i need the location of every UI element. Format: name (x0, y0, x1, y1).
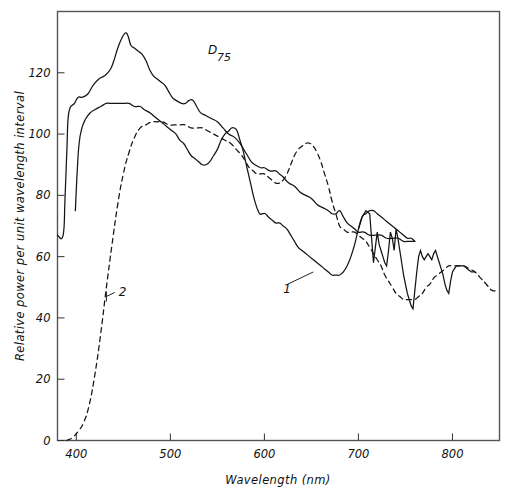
y-tick-label-60: 60 (36, 250, 51, 264)
x-tick-label-800: 800 (442, 447, 464, 461)
series-label-1: 1 (283, 282, 291, 296)
chart-canvas: 400500600700800 020406080100120 D 75 1 2… (0, 0, 509, 496)
series-curve-1 (75, 103, 414, 275)
series-label-d75-subscript: 75 (217, 51, 231, 64)
x-tick-label-700: 700 (347, 447, 369, 461)
series-curve-1-extension (358, 211, 475, 309)
plot-frame (58, 12, 500, 441)
annotation-1: 1 (283, 272, 313, 296)
x-tick-label-600: 600 (253, 447, 275, 461)
y-tick-label-20: 20 (36, 372, 51, 386)
leader-line-2 (106, 292, 114, 296)
y-axis-label: Relative power per unit wavelength inter… (13, 91, 27, 362)
y-tick-label-0: 0 (43, 434, 50, 448)
series-label-2: 2 (119, 285, 127, 299)
series-layer (58, 33, 498, 441)
series-label-d75: D (208, 43, 217, 57)
x-axis-label: Wavelength (nm) (225, 473, 330, 487)
y-tick-label-120: 120 (29, 66, 51, 80)
x-tick-label-400: 400 (65, 447, 87, 461)
figure-spectral-power-distribution: 400500600700800 020406080100120 D 75 1 2… (0, 0, 509, 496)
series-curve-2 (67, 122, 498, 441)
x-axis-ticks: 400500600700800 (65, 434, 463, 461)
y-axis-ticks: 020406080100120 (29, 66, 65, 448)
y-tick-label-80: 80 (36, 188, 51, 202)
x-tick-label-500: 500 (159, 447, 181, 461)
annotation-d75: D 75 (208, 43, 231, 64)
annotation-2: 2 (106, 285, 126, 301)
y-tick-label-40: 40 (36, 311, 51, 325)
series-curve-d75 (58, 33, 415, 242)
plot-frame-rect (58, 12, 500, 441)
y-tick-label-100: 100 (29, 127, 51, 141)
leader-line-1 (287, 272, 313, 284)
